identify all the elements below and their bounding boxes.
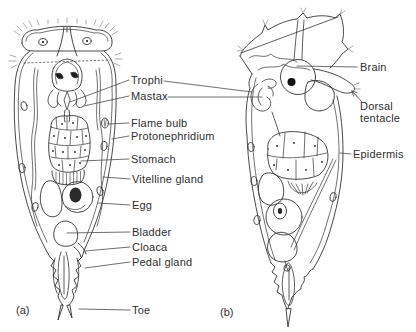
label-epidermis: Epidermis [353,148,404,160]
leader-vitelline-gland [103,177,130,179]
wall-cells-b [248,142,337,225]
eyespot-b [288,78,296,86]
leader-trophi-b [164,81,252,92]
corona-a [22,26,112,56]
mouth-funnel-a [57,27,77,56]
epidermis-line-b [310,100,339,263]
stomach-a [49,116,91,173]
mastax-b [251,79,280,136]
rotifer-b-drawing [237,8,360,327]
oviduct-sac-a [40,181,62,217]
trophi-jaw-left-icon [56,73,63,79]
leader-cloaca [85,247,130,251]
egg-a [62,182,93,213]
panel-caption-b: (b) [220,306,233,318]
cloaca-a [74,243,86,257]
label-brain: Brain [360,61,387,73]
body-outline-a [14,51,116,257]
label-protonephridium: Protonephridium [131,130,215,142]
bladder-a [54,221,78,246]
leader-lines [67,66,362,310]
label-mastax: Mastax [131,90,168,102]
neck-funnel-b [294,20,304,60]
leader-brain [297,66,357,67]
pedal-gland-b [282,263,294,305]
leader-trophi-a [70,80,129,102]
label-stomach: Stomach [131,153,176,165]
vitelline-gland-b [266,199,302,235]
mastax-a [48,59,86,122]
neck-dotted-line-a [24,60,110,63]
leader-bladder [67,232,130,233]
foot-a [50,252,82,320]
head-lobe-b [305,80,334,111]
rotifer-a-drawing [9,18,122,320]
leader-egg [98,203,130,205]
corona-b [237,8,353,74]
label-bladder: Bladder [132,226,171,238]
rotifer-anatomy-diagram: Trophi Mastax Flame bulb Protonephridium… [0,0,416,332]
esophagus-b [272,112,280,136]
leader-mastax-a [84,96,129,106]
foot-b [271,263,313,327]
label-dorsal-tentacle: Dorsal tentacle [360,100,414,124]
brain-b [281,60,316,95]
label-trophi: Trophi [131,74,163,86]
pedal-gland-a [53,252,78,299]
oviduct-sac-b [258,173,283,205]
toe-b [286,309,291,327]
trophi-jaw-right-icon [71,72,78,78]
toe-a [58,305,72,320]
label-toe: Toe [132,304,150,316]
label-cloaca: Cloaca [132,241,167,253]
leader-epidermis [340,153,351,154]
label-vitelline-gland: Vitelline gland [132,173,203,185]
diagram-artwork [0,0,416,332]
flame-bulb-structure-a [102,118,109,128]
stomach-fan-b [288,181,317,195]
label-egg: Egg [132,199,152,211]
trophi-hooks-a [48,90,86,110]
head-fold-line-b [241,17,338,53]
leader-pedal-gland [85,262,130,268]
leader-toe [79,309,130,310]
label-flame-bulb: Flame bulb [131,117,187,129]
label-pedal-gland: Pedal gland [132,256,192,268]
stomach-b [267,132,328,180]
panel-caption-a: (a) [16,304,29,316]
